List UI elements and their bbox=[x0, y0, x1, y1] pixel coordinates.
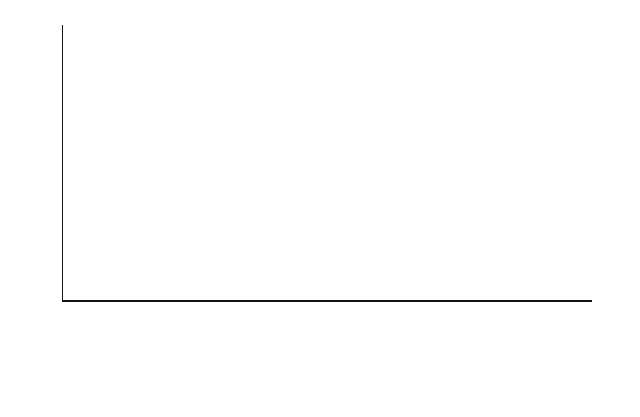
y-axis-title bbox=[25, 0, 47, 198]
bar-chart bbox=[0, 0, 640, 417]
plot-area bbox=[62, 25, 591, 301]
x-axis-category-labels bbox=[62, 303, 602, 383]
bar-series bbox=[62, 25, 591, 301]
